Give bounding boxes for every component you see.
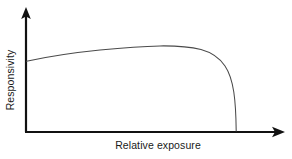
- responsivity-curve: [27, 46, 237, 131]
- plot-area: [0, 0, 292, 159]
- characteristic-curve-figure: Responsivity Relative exposure: [0, 0, 292, 159]
- y-axis-label-container: Responsivity: [0, 0, 20, 159]
- x-axis-label: Relative exposure: [0, 139, 292, 151]
- y-axis-label: Responsivity: [4, 49, 16, 110]
